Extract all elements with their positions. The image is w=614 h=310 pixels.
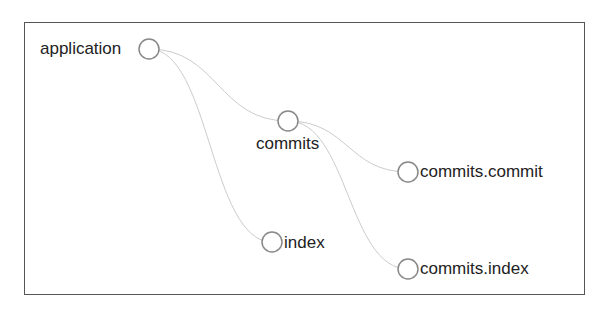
node-index-icon[interactable] — [262, 232, 282, 252]
node-label-commits-index: commits.index — [420, 259, 529, 279]
node-application-icon[interactable] — [139, 39, 159, 59]
node-label-application: application — [40, 39, 121, 59]
node-commits-index-icon[interactable] — [398, 259, 418, 279]
node-commits-icon[interactable] — [278, 111, 298, 131]
edge-application-commits — [149, 49, 288, 121]
node-label-commits: commits — [256, 134, 319, 154]
node-commits-commit-icon[interactable] — [398, 162, 418, 182]
node-label-commits-commit: commits.commit — [420, 162, 543, 182]
node-label-index: index — [284, 233, 325, 253]
